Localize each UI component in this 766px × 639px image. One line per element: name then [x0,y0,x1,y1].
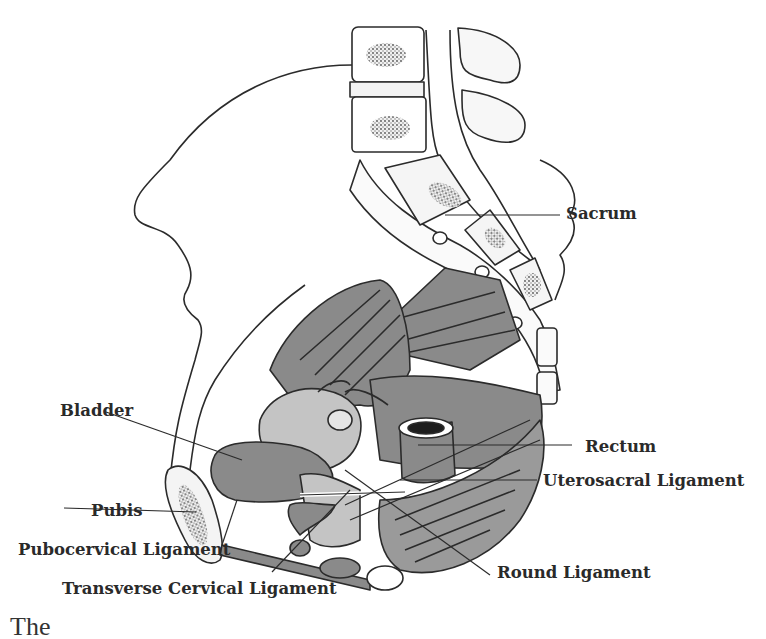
label-sacrum: Sacrum [566,206,637,223]
label-rectum: Rectum [585,439,656,456]
label-bladder: Bladder [60,403,133,420]
label-round-ligament: Round Ligament [497,565,651,582]
label-transverse-cervical-ligament: Transverse Cervical Ligament [62,581,337,598]
figure-caption: The [10,614,50,639]
label-pubocervical-ligament: Pubocervical Ligament [18,542,230,559]
muscle-fan-posterior [395,268,520,370]
label-uterosacral-ligament: Uterosacral Ligament [543,473,744,490]
label-pubis: Pubis [91,503,143,520]
leader-pubocervical [222,500,237,545]
